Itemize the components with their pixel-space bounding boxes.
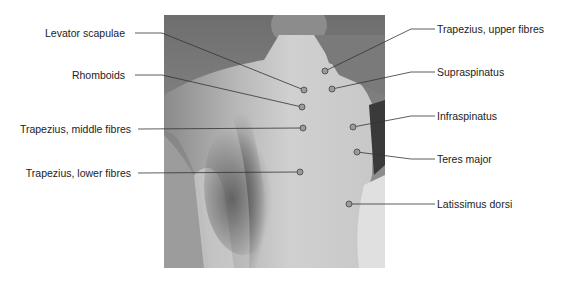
teres-major-marker xyxy=(354,149,360,155)
infraspinatus-leader-line xyxy=(353,116,435,127)
label-levator-scapulae: Levator scapulae xyxy=(45,27,125,39)
levator-scapulae-leader-line xyxy=(135,33,304,90)
infraspinatus-marker xyxy=(350,124,356,130)
label-supraspinatus: Supraspinatus xyxy=(437,66,504,78)
rhomboids-marker xyxy=(299,104,305,110)
trapezius-lower-fibres-leader-line xyxy=(138,172,300,173)
trapezius-lower-marker xyxy=(297,169,303,175)
levator-scapulae-marker xyxy=(301,87,307,93)
trapezius-upper-fibres-leader-line xyxy=(325,29,435,71)
label-teres-major: Teres major xyxy=(437,153,492,165)
teres-major-leader-line xyxy=(357,152,435,159)
label-trapezius-lower-fibres: Trapezius, lower fibres xyxy=(26,167,131,179)
label-rhomboids: Rhomboids xyxy=(72,69,125,81)
latissimus-dorsi-marker xyxy=(346,201,352,207)
label-trapezius-upper-fibres: Trapezius, upper fibres xyxy=(437,23,544,35)
trapezius-upper-marker xyxy=(322,68,328,74)
label-latissimus-dorsi: Latissimus dorsi xyxy=(437,198,512,210)
trapezius-middle-marker xyxy=(300,125,306,131)
label-trapezius-middle-fibres: Trapezius, middle fibres xyxy=(20,123,131,135)
supraspinatus-marker xyxy=(329,86,335,92)
annotation-layer xyxy=(0,0,562,282)
trapezius-middle-fibres-leader-line xyxy=(138,128,303,129)
label-infraspinatus: Infraspinatus xyxy=(437,110,497,122)
rhomboids-leader-line xyxy=(135,75,302,107)
supraspinatus-leader-line xyxy=(332,72,435,89)
